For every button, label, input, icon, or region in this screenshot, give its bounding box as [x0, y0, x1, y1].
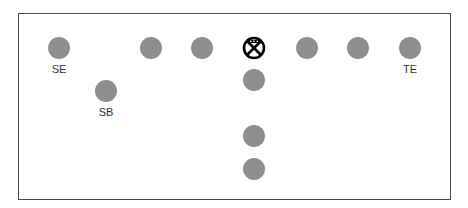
center-symbol-icon: [242, 36, 266, 60]
player-tailback: [243, 158, 265, 180]
player-slot-back: [95, 80, 117, 102]
player-right-guard: [296, 37, 318, 59]
player-right-tackle: [347, 37, 369, 59]
player-quarterback: [243, 69, 265, 91]
label-te: TE: [403, 63, 417, 75]
player-left-guard: [191, 37, 213, 59]
formation-frame: [18, 13, 451, 200]
player-fullback: [243, 125, 265, 147]
label-sb: SB: [99, 106, 114, 118]
player-left-tackle: [140, 37, 162, 59]
player-tight-end: [399, 37, 421, 59]
label-se: SE: [52, 63, 67, 75]
player-split-end: [48, 37, 70, 59]
